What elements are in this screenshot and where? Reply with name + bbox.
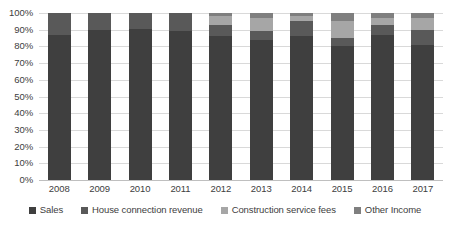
- x-axis-tick-label: 2011: [160, 181, 200, 197]
- stacked-bar[interactable]: [371, 13, 394, 180]
- plot-wrapper: 100%90%80%70%60%50%40%30%20%10%0%: [0, 0, 450, 196]
- stacked-bar[interactable]: [411, 13, 434, 180]
- stacked-bar[interactable]: [169, 13, 192, 180]
- y-axis: 100%90%80%70%60%50%40%30%20%10%0%: [0, 13, 36, 180]
- x-axis-tick-label: 2012: [201, 181, 241, 197]
- bar-segment[interactable]: [129, 29, 152, 180]
- y-axis-tick-label: 20%: [14, 142, 33, 152]
- bar-segment[interactable]: [88, 30, 111, 180]
- x-axis-tick-label: 2008: [39, 181, 79, 197]
- x-axis-tick-label: 2015: [322, 181, 362, 197]
- legend-item[interactable]: Construction service fees: [221, 205, 336, 215]
- bar-slot: [241, 13, 281, 180]
- bar-segment[interactable]: [290, 36, 313, 180]
- bar-segment[interactable]: [250, 18, 273, 31]
- bar-slot: [39, 13, 79, 180]
- x-axis-tick-label: 2010: [120, 181, 160, 197]
- bar-slot: [160, 13, 200, 180]
- stacked-bar[interactable]: [290, 13, 313, 180]
- bar-segment[interactable]: [411, 18, 434, 30]
- legend-item[interactable]: Sales: [29, 205, 63, 215]
- x-axis-tick-label: 2009: [79, 181, 119, 197]
- stacked-bar[interactable]: [209, 13, 232, 180]
- bar-segment[interactable]: [411, 30, 434, 45]
- bar-segment[interactable]: [331, 13, 354, 21]
- legend-label: Sales: [40, 205, 63, 215]
- stacked-bar[interactable]: [48, 13, 71, 180]
- bar-segment[interactable]: [250, 31, 273, 39]
- bar-segment[interactable]: [129, 13, 152, 29]
- bar-segment[interactable]: [331, 21, 354, 38]
- bar-segment[interactable]: [371, 35, 394, 180]
- legend-swatch-icon: [221, 207, 228, 214]
- bar-segment[interactable]: [48, 35, 71, 180]
- stacked-bar-chart: 100%90%80%70%60%50%40%30%20%10%0% 200820…: [0, 0, 450, 229]
- stacked-bar[interactable]: [250, 13, 273, 180]
- bar-segment[interactable]: [250, 40, 273, 180]
- legend-item[interactable]: House connection revenue: [81, 205, 203, 215]
- bar-slot: [362, 13, 402, 180]
- y-axis-tick-label: 40%: [14, 108, 33, 118]
- bar-group: [39, 13, 443, 180]
- plot-area: [39, 13, 443, 180]
- bar-slot: [79, 13, 119, 180]
- y-axis-tick-label: 80%: [14, 42, 33, 52]
- bar-slot: [281, 13, 321, 180]
- bar-segment[interactable]: [48, 13, 71, 35]
- bar-segment[interactable]: [209, 36, 232, 180]
- x-axis-tick-label: 2017: [403, 181, 443, 197]
- bar-segment[interactable]: [331, 38, 354, 46]
- y-axis-tick-label: 0%: [19, 175, 33, 185]
- legend-swatch-icon: [81, 207, 88, 214]
- legend-label: Construction service fees: [232, 205, 336, 215]
- bar-segment[interactable]: [88, 13, 111, 30]
- y-axis-tick-label: 100%: [9, 8, 33, 18]
- chart-legend: SalesHouse connection revenueConstructio…: [0, 200, 450, 220]
- legend-label: House connection revenue: [92, 205, 203, 215]
- stacked-bar[interactable]: [129, 13, 152, 180]
- bar-segment[interactable]: [169, 13, 192, 31]
- bar-slot: [322, 13, 362, 180]
- y-axis-tick-label: 30%: [14, 125, 33, 135]
- legend-swatch-icon: [354, 207, 361, 214]
- bar-segment[interactable]: [169, 31, 192, 180]
- bar-segment[interactable]: [331, 46, 354, 180]
- bar-slot: [120, 13, 160, 180]
- legend-label: Other Income: [365, 205, 421, 215]
- bar-segment[interactable]: [371, 25, 394, 35]
- bar-slot: [201, 13, 241, 180]
- y-axis-tick-label: 60%: [14, 75, 33, 85]
- x-axis: 2008200920102011201220132014201520162017: [39, 181, 443, 197]
- stacked-bar[interactable]: [331, 13, 354, 180]
- bar-segment[interactable]: [411, 45, 434, 180]
- bar-slot: [403, 13, 443, 180]
- y-axis-tick-label: 90%: [14, 25, 33, 35]
- bar-segment[interactable]: [371, 18, 394, 25]
- y-axis-tick-label: 50%: [14, 92, 33, 102]
- x-axis-tick-label: 2014: [281, 181, 321, 197]
- bar-segment[interactable]: [290, 21, 313, 36]
- legend-swatch-icon: [29, 207, 36, 214]
- y-axis-tick-label: 10%: [14, 159, 33, 169]
- legend-item[interactable]: Other Income: [354, 205, 421, 215]
- x-axis-tick-label: 2016: [362, 181, 402, 197]
- bar-segment[interactable]: [209, 25, 232, 37]
- bar-segment[interactable]: [209, 16, 232, 24]
- y-axis-tick-label: 70%: [14, 58, 33, 68]
- stacked-bar[interactable]: [88, 13, 111, 180]
- x-axis-tick-label: 2013: [241, 181, 281, 197]
